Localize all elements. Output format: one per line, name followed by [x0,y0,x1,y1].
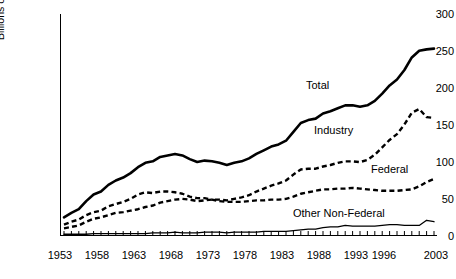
x-tick-label-1983: 1983 [262,250,302,261]
x-tick-label-1973: 1973 [188,250,228,261]
series-label-federal: Federal [371,163,408,175]
x-tick-label-1968: 1968 [151,250,191,261]
series-line-other-non-federal [64,220,434,234]
x-tick-label-1953: 1953 [40,250,80,261]
y-axis-title: Billions of Constant 1996 Dollars [0,0,6,40]
x-tick-label-1988: 1988 [299,250,339,261]
series-label-industry: Industry [314,124,353,136]
x-tick-label-2003: 2003 [416,250,456,261]
x-tick-label-1963: 1963 [114,250,154,261]
plot-area: Total Industry Federal Other Non-Federal [60,14,437,236]
series-line-total [64,49,434,218]
series-label-total: Total [306,79,329,91]
x-tick-label-1958: 1958 [77,250,117,261]
x-tick-label-1978: 1978 [225,250,265,261]
series-label-other-non-federal: Other Non-Federal [293,207,385,219]
x-tick-label-1996: 1996 [364,250,404,261]
series-svg [61,14,437,235]
